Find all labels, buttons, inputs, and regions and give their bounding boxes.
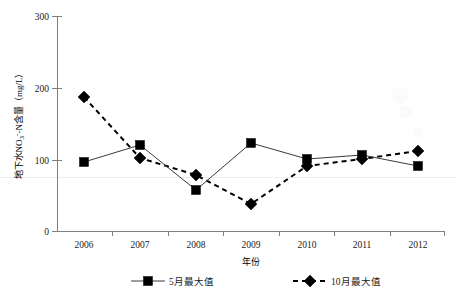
line-chart-canvas: 300 200 100 0 2006 2007 2008 2009 2010 2… [0, 0, 457, 299]
x-tick-label: 2006 [75, 240, 94, 250]
chart-figure: 300 200 100 0 2006 2007 2008 2009 2010 2… [0, 0, 457, 299]
x-axis-tick-labels: 2006 2007 2008 2009 2010 2011 2012 [75, 240, 428, 250]
y-tick-label: 300 [35, 12, 50, 22]
legend-label-october: 10月最大值 [331, 276, 381, 287]
y-axis-title-prefix: 地下水NO [13, 139, 24, 179]
x-tick-label: 2008 [187, 240, 206, 250]
x-tick-label: 2011 [353, 240, 372, 250]
chart-legend: 5月最大值 10月最大值 [131, 275, 381, 287]
legend-marker-square [144, 277, 153, 286]
x-tick-label: 2010 [298, 240, 317, 250]
y-tick-label: 0 [44, 227, 49, 237]
x-axis-title: 年份 [242, 256, 260, 267]
x-axis-ticks [113, 232, 445, 237]
legend-marker-diamond [304, 275, 316, 287]
series-markers-may [80, 139, 423, 195]
x-tick-label: 2012 [409, 240, 428, 250]
y-tick-label: 200 [35, 84, 50, 94]
svg-text:地下水NO3--N含量（mg/L）: 地下水NO3--N含量（mg/L） [13, 69, 26, 180]
y-axis-title: 地下水NO3--N含量（mg/L） [13, 69, 26, 180]
watermark [391, 86, 423, 138]
series-line-may [84, 143, 418, 190]
y-axis-tick-labels: 300 200 100 0 [35, 12, 50, 237]
legend-item-may[interactable]: 5月最大值 [131, 276, 214, 287]
legend-item-october[interactable]: 10月最大值 [293, 275, 381, 287]
x-tick-label: 2007 [131, 240, 150, 250]
x-tick-label: 2009 [242, 240, 261, 250]
series-markers-october [78, 91, 424, 210]
y-axis-title-suffix: -N含量（mg/L） [13, 69, 24, 134]
series-line-october [84, 97, 418, 204]
legend-label-may: 5月最大值 [169, 276, 214, 287]
y-tick-label: 100 [35, 156, 50, 166]
